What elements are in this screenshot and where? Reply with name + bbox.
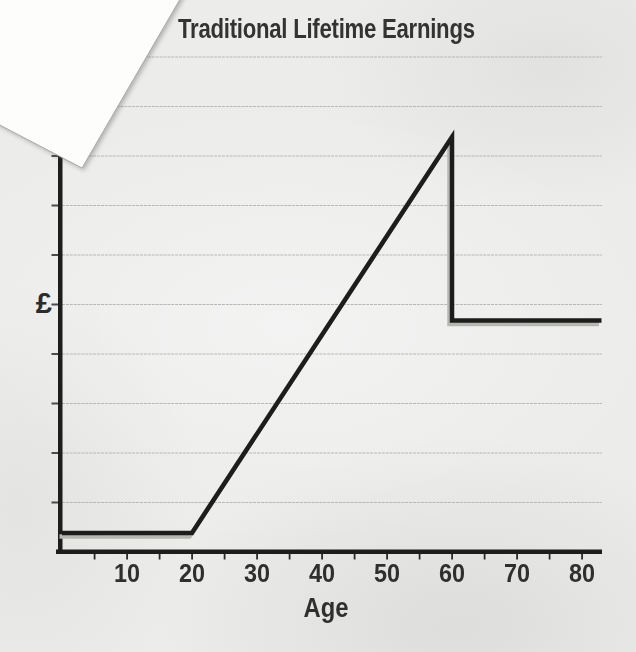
y-axis-tick [52, 304, 59, 306]
x-axis-tick-label: 30 [237, 560, 277, 586]
x-axis-label: Age [299, 595, 354, 622]
chart-title: Traditional Lifetime Earnings [178, 16, 475, 43]
scanned-book-page: Traditional Lifetime Earnings £ 10203040… [0, 0, 636, 652]
x-axis-tick-label: 60 [432, 560, 472, 586]
y-axis-tick [52, 353, 59, 355]
earnings-line [62, 137, 602, 533]
x-axis-tick-label: 80 [562, 560, 602, 586]
y-axis-label: £ [18, 289, 52, 318]
x-axis-tick-label: 40 [302, 560, 342, 586]
y-axis-line [58, 148, 63, 554]
earnings-line-shadow [60, 141, 600, 537]
y-axis-tick [52, 502, 59, 504]
y-axis-tick [52, 254, 59, 256]
gridlines [62, 57, 602, 503]
overlapping-page-corner [0, 0, 183, 168]
x-axis-line [56, 550, 602, 555]
x-axis-tick-label: 50 [367, 560, 407, 586]
x-axis-tick-label: 20 [172, 560, 212, 586]
x-axis-tick-label: 70 [497, 560, 537, 586]
y-axis-tick [52, 452, 59, 454]
y-axis-tick [52, 403, 59, 405]
y-axis-tick [52, 205, 59, 207]
x-axis-tick-label: 10 [107, 560, 147, 586]
y-axis-ticks [52, 155, 59, 504]
chart-canvas [0, 0, 636, 652]
